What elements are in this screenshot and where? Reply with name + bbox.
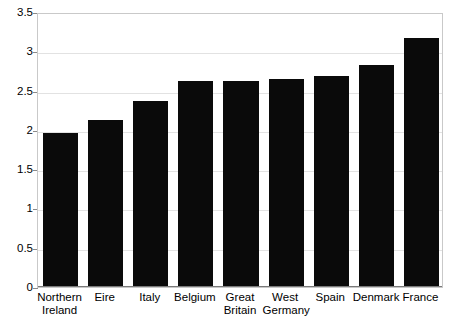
bars-layer (38, 14, 442, 287)
x-tick-label-line: Northern (37, 291, 82, 304)
x-tick-label-line: Germany (263, 304, 308, 317)
y-tick-label: 2 (0, 125, 33, 137)
y-axis-labels: 00.511.522.533.5 (0, 0, 33, 329)
y-tick-mark (33, 92, 37, 93)
x-tick-label-line: Eire (82, 291, 127, 304)
x-tick-label-line: Spain (308, 291, 353, 304)
y-tick-mark (33, 131, 37, 132)
x-tick-label-line: West (263, 291, 308, 304)
bar (88, 120, 123, 287)
x-tick-label-line: France (398, 291, 443, 304)
y-tick-label: 3 (0, 47, 33, 59)
y-tick-mark (33, 209, 37, 210)
plot-area (37, 13, 443, 288)
x-tick-label-line: Britain (217, 304, 262, 317)
y-tick-mark (33, 249, 37, 250)
x-tick-label: Denmark (353, 291, 398, 304)
y-tick-mark (33, 170, 37, 171)
y-tick-label: 0 (0, 282, 33, 294)
y-tick-label: 0.5 (0, 243, 33, 255)
y-tick-label: 1.5 (0, 164, 33, 176)
x-tick-label-line: Ireland (37, 304, 82, 317)
bar (223, 81, 258, 287)
bar-chart: 00.511.522.533.5 NorthernIrelandEireItal… (0, 0, 471, 329)
x-tick-label-line: Belgium (172, 291, 217, 304)
y-tick-mark (33, 288, 37, 289)
y-tick-mark (33, 13, 37, 14)
x-axis-labels: NorthernIrelandEireItalyBelgiumGreatBrit… (37, 291, 443, 329)
bar (43, 133, 78, 287)
x-tick-label-line: Denmark (353, 291, 398, 304)
x-axis-baseline (38, 286, 442, 287)
x-tick-label: WestGermany (263, 291, 308, 316)
y-tick-label: 3.5 (0, 7, 33, 19)
x-tick-label-line: Great (217, 291, 262, 304)
bar (314, 76, 349, 287)
bar (404, 38, 439, 287)
bar (178, 81, 213, 287)
y-tick-label: 2.5 (0, 86, 33, 98)
y-tick-label: 1 (0, 204, 33, 216)
x-tick-label: Spain (308, 291, 353, 304)
y-tick-mark (33, 52, 37, 53)
bar (133, 101, 168, 287)
x-tick-label: Italy (127, 291, 172, 304)
x-tick-label-line: Italy (127, 291, 172, 304)
x-tick-label: Belgium (172, 291, 217, 304)
bar (359, 65, 394, 287)
x-tick-label: GreatBritain (217, 291, 262, 316)
x-tick-label: France (398, 291, 443, 304)
bar (269, 79, 304, 287)
x-tick-label: NorthernIreland (37, 291, 82, 316)
x-tick-label: Eire (82, 291, 127, 304)
